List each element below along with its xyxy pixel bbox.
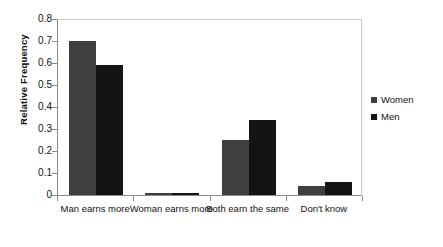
bar-group: [222, 19, 276, 195]
y-axis-tick-mark: [52, 19, 57, 20]
x-axis-category-label: Don't know: [276, 203, 372, 216]
y-axis-tick-mark: [52, 151, 57, 152]
plot-area: [57, 19, 362, 196]
bar-men-2: [249, 120, 276, 195]
x-axis-tick-mark: [362, 196, 363, 201]
bar-women-1: [145, 193, 172, 195]
legend-swatch-icon: [371, 114, 377, 120]
y-axis-tick-mark: [52, 41, 57, 42]
x-axis-tick-mark: [57, 196, 58, 201]
y-axis-tick-label: 0.8: [12, 14, 52, 24]
bar-men-0: [96, 65, 123, 195]
y-axis-tick-label: 0.1: [12, 168, 52, 178]
y-axis-tick-mark: [52, 85, 57, 86]
bar-women-0: [69, 41, 96, 195]
legend-item-label: Men: [381, 111, 399, 122]
legend-swatch-icon: [371, 97, 377, 103]
bar-group: [298, 19, 352, 195]
legend-item-men: Men: [371, 111, 414, 122]
bar-group: [69, 19, 123, 195]
y-axis-tick-mark: [52, 129, 57, 130]
y-axis-tick-label: 0.7: [12, 36, 52, 46]
x-axis-tick-mark: [210, 196, 211, 201]
legend-item-label: Women: [381, 94, 414, 105]
bar-group: [145, 19, 199, 195]
y-axis-tick-label: 0.2: [12, 146, 52, 156]
x-axis-tick-mark: [286, 196, 287, 201]
bar-men-3: [325, 182, 352, 195]
legend-item-women: Women: [371, 94, 414, 105]
y-axis-tick-mark: [52, 173, 57, 174]
y-axis-tick-label: 0.6: [12, 58, 52, 68]
bar-women-3: [298, 186, 325, 195]
y-axis-tick-label: 0.4: [12, 102, 52, 112]
bar-men-1: [172, 193, 199, 195]
y-axis-tick-label: 0.5: [12, 80, 52, 90]
chart-legend: WomenMen: [371, 94, 414, 128]
bar-chart: Relative Frequency WomenMen 0.80.70.60.5…: [0, 0, 443, 247]
y-axis-tick-label: 0: [12, 190, 52, 200]
y-axis-tick-mark: [52, 63, 57, 64]
y-axis-tick-mark: [52, 107, 57, 108]
bar-women-2: [222, 140, 249, 195]
y-axis-tick-label: 0.3: [12, 124, 52, 134]
x-axis-tick-mark: [133, 196, 134, 201]
